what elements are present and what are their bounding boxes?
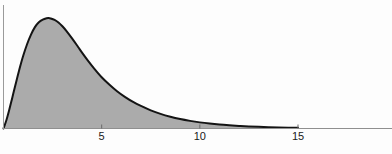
x-tick-label: 5: [99, 131, 105, 142]
x-tick-label: 15: [292, 131, 304, 142]
density-area-fill: [4, 18, 299, 128]
x-tick-label: 10: [194, 131, 206, 142]
density-plot-figure: 51015: [0, 0, 392, 154]
